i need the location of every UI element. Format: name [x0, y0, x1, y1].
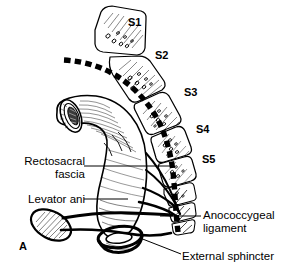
- rectum-and-anal-canal: [56, 96, 147, 245]
- leader-external-sphincter: [140, 238, 181, 254]
- vertebra-s1: [95, 6, 146, 55]
- anatomy-illustration: [0, 0, 289, 276]
- anatomical-figure-panel-a: S1 S2 S3 S4 S5 Rectosacral fascia Levato…: [0, 0, 289, 276]
- levator-ani-cut-surface: [26, 203, 77, 247]
